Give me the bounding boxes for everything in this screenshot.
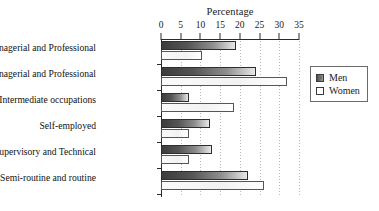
x-tick-mark [239, 33, 240, 40]
bar-men [161, 41, 236, 50]
bar-men [161, 93, 189, 102]
x-tick-mark [299, 33, 300, 40]
x-tick-label: 30 [275, 20, 285, 30]
bar-chart: Percentage 05101520253035 Higher Manager… [0, 0, 379, 211]
gridline [260, 41, 261, 196]
x-axis-title: Percentage [161, 6, 299, 17]
category-label: Self-employed [40, 120, 96, 131]
category-label: Lower Supervisory and Technical [0, 146, 96, 157]
x-tick-label: 5 [178, 20, 183, 30]
x-axis-tick-labels: 05101520253035 [161, 20, 299, 32]
y-tick-mark [157, 168, 162, 169]
bar-women [161, 155, 189, 164]
bar-women [161, 77, 287, 86]
x-tick-label: 25 [255, 20, 265, 30]
gridline [279, 41, 280, 196]
y-tick-mark [157, 64, 162, 65]
category-label: Lower Managerial and Professional [0, 68, 96, 79]
x-tick-label: 10 [196, 20, 206, 30]
men-swatch-icon [316, 74, 324, 82]
x-tick-mark [180, 33, 181, 40]
x-tick-label: 35 [294, 20, 304, 30]
category-label: Semi-routine and routine [0, 172, 96, 183]
legend-label-men: Men [329, 72, 347, 83]
gridline [299, 41, 300, 196]
x-tick-mark [220, 33, 221, 40]
bar-women [161, 129, 189, 138]
x-tick-label: 20 [235, 20, 245, 30]
category-label: Intermediate occupations [0, 94, 96, 105]
bar-women [161, 51, 202, 60]
x-tick-mark [279, 33, 280, 40]
x-tick-mark [259, 33, 260, 40]
bar-women [161, 181, 264, 190]
bar-women [161, 103, 234, 112]
legend: Men Women [310, 66, 368, 102]
legend-item-men[interactable]: Men [316, 71, 360, 84]
x-tick-label: 15 [215, 20, 225, 30]
y-tick-mark [157, 194, 162, 195]
y-tick-mark [157, 116, 162, 117]
category-label: Higher Managerial and Professional [0, 42, 96, 53]
bar-men [161, 67, 256, 76]
legend-label-women: Women [329, 85, 360, 96]
x-tick-label: 0 [159, 20, 164, 30]
bar-men [161, 171, 248, 180]
women-swatch-icon [316, 87, 324, 95]
y-tick-mark [157, 90, 162, 91]
x-tick-mark [200, 33, 201, 40]
x-tick-mark [161, 33, 162, 40]
bar-men [161, 145, 212, 154]
legend-item-women[interactable]: Women [316, 84, 360, 97]
y-tick-mark [157, 142, 162, 143]
bar-men [161, 119, 210, 128]
